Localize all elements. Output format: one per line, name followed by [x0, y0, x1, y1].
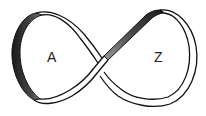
right-loop-outer-edge [100, 10, 197, 107]
left-loop-shaded-face [12, 13, 42, 100]
mobius-diagram: A Z [0, 0, 206, 116]
label-a: A [47, 50, 56, 64]
mobius-band-drawing [0, 0, 206, 116]
label-z: Z [154, 50, 163, 64]
left-loop-inner-bottom-edge [40, 68, 94, 99]
right-loop-inner-edge [104, 13, 190, 99]
